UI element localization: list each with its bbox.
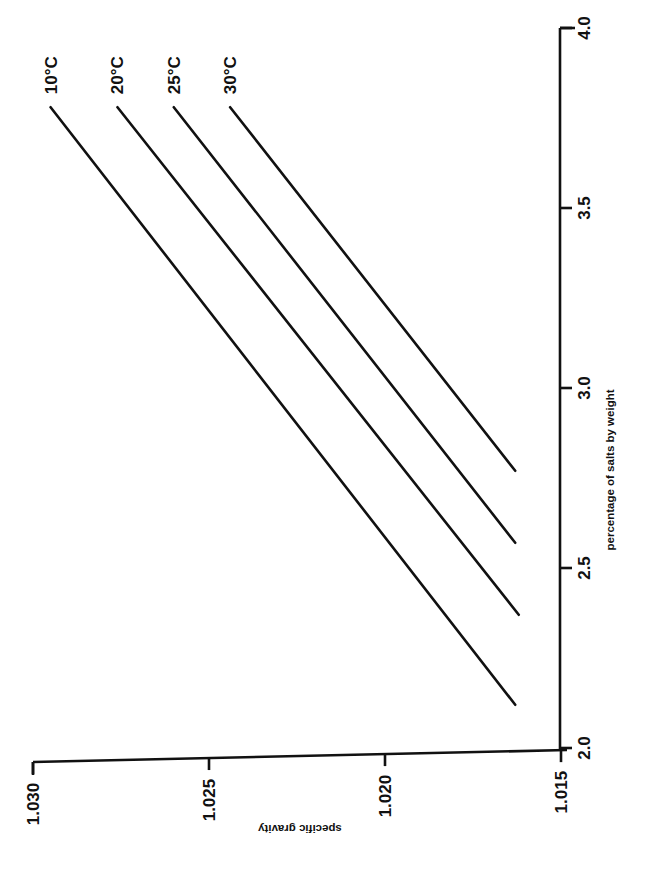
y-axis-title: specific gravity bbox=[258, 823, 342, 835]
series-line bbox=[51, 107, 516, 705]
series-label: 30°C bbox=[221, 56, 240, 94]
y-tick-label: 1.025 bbox=[200, 779, 219, 822]
series-line bbox=[117, 107, 518, 615]
y-tick-label: 1.030 bbox=[24, 783, 43, 826]
x-axis-title: percentage of salts by weight bbox=[604, 389, 616, 550]
series-label: 10°C bbox=[42, 56, 61, 94]
y-axis-line bbox=[33, 750, 567, 762]
x-ticks: 2.02.53.03.54.0 bbox=[560, 16, 594, 760]
y-tick-label: 1.015 bbox=[552, 771, 571, 814]
series-label: 25°C bbox=[165, 56, 184, 94]
series-line bbox=[230, 107, 515, 471]
series-label: 20°C bbox=[108, 56, 127, 94]
x-tick-label: 2.0 bbox=[575, 736, 594, 760]
series-line bbox=[174, 107, 515, 543]
series-lines: 10°C20°C25°C30°C bbox=[42, 56, 519, 705]
specific-gravity-chart: 2.02.53.03.54.0 1.0151.0201.0251.030 10°… bbox=[0, 0, 647, 872]
y-tick-label: 1.020 bbox=[376, 775, 395, 818]
x-tick-label: 4.0 bbox=[575, 16, 594, 40]
x-tick-label: 3.0 bbox=[575, 376, 594, 400]
axes bbox=[33, 28, 575, 775]
x-tick-label: 2.5 bbox=[575, 556, 594, 580]
x-tick-label: 3.5 bbox=[575, 196, 594, 220]
